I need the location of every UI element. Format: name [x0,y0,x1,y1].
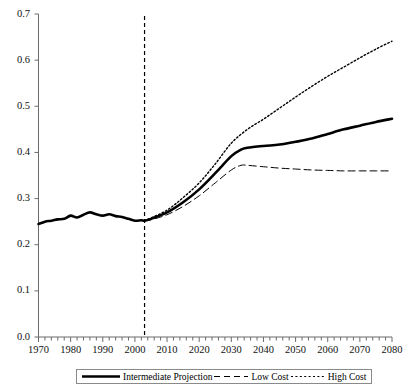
legend-swatch-solid [81,372,121,381]
legend-swatch-dotted [290,372,326,381]
series-line-low-cost [145,165,392,221]
chart-legend: Intermediate ProjectionLow CostHigh Cost [76,369,372,384]
y-tick-label: 0.4 [4,147,30,157]
legend-label: Intermediate Projection [122,372,213,382]
y-tick-label: 0.1 [4,285,30,295]
series-line-intermediate-projection [39,119,393,224]
axis-group [35,14,393,342]
y-tick-label: 0.7 [4,9,30,19]
y-tick-label: 0.5 [4,101,30,111]
y-tick-label: 0.2 [4,239,30,249]
x-tick-label: 2080 [372,344,407,355]
series-line-high-cost [145,41,392,220]
y-tick-label: 0.0 [4,332,30,342]
legend-label: High Cost [327,372,368,382]
legend-label: Low Cost [250,372,289,382]
legend-item: Low Cost [213,370,289,383]
legend-swatch-dashed [213,372,249,381]
y-tick-label: 0.6 [4,55,30,65]
y-tick-label: 0.3 [4,193,30,203]
legend-item: High Cost [290,370,368,383]
legend-item: Intermediate Projection [81,370,213,383]
series-group [39,41,393,224]
